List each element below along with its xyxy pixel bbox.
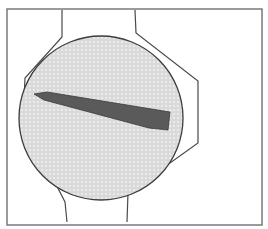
diagram-svg [0,0,268,229]
diagram-canvas [0,0,268,229]
